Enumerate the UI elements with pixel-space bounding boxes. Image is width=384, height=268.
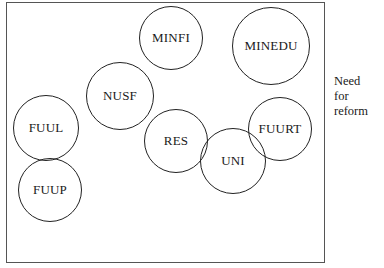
node-res: RES xyxy=(144,109,208,173)
node-label: MINFI xyxy=(152,30,190,46)
node-minedu: MINEDU xyxy=(232,7,310,85)
node-label: RES xyxy=(164,133,188,149)
node-nusf: NUSF xyxy=(86,62,154,130)
node-fuul: FUUL xyxy=(13,95,79,161)
node-label: NUSF xyxy=(103,88,137,104)
node-label: FUUL xyxy=(29,120,64,136)
node-minfi: MINFI xyxy=(139,6,203,70)
node-label: FUUP xyxy=(33,182,67,198)
need-for-reform-label: Need for reform xyxy=(334,74,384,119)
side-label-line1: Need xyxy=(334,74,384,89)
node-fuup: FUUP xyxy=(18,158,82,222)
node-label: FUURT xyxy=(259,121,302,137)
node-label: UNI xyxy=(221,153,245,169)
node-label: MINEDU xyxy=(244,38,297,54)
node-uni: UNI xyxy=(200,128,266,194)
side-label-line2: for reform xyxy=(334,89,384,119)
